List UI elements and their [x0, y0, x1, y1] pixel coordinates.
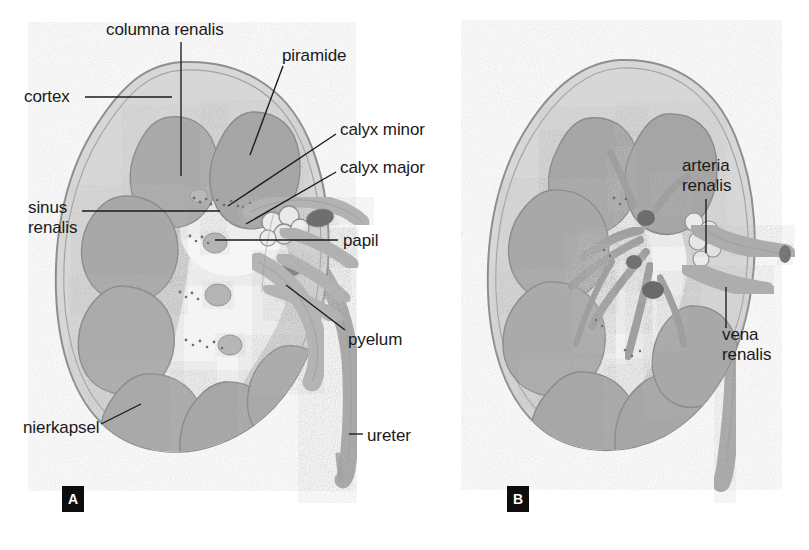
label-vena_renalis: vena renalis — [722, 325, 771, 365]
panel-badge-a: A — [62, 486, 84, 512]
kidney-diagram-svg — [0, 0, 809, 550]
label-cortex: cortex — [24, 87, 70, 107]
label-calyx_major: calyx major — [340, 158, 425, 178]
kidney-panel-a — [56, 62, 362, 496]
label-nierkapsel: nierkapsel — [23, 418, 100, 438]
label-pyelum: pyelum — [348, 330, 402, 350]
label-papil: papil — [343, 231, 378, 251]
label-arteria_renalis: arteria renalis — [682, 156, 731, 196]
label-piramide: piramide — [282, 46, 346, 66]
kidney-panel-b — [488, 60, 791, 494]
label-sinus_renalis: sinus renalis — [28, 198, 77, 238]
figure-page: columna renalispiramidecortexcalyx minor… — [0, 0, 809, 550]
label-ureter: ureter — [367, 426, 411, 446]
label-columna_renalis: columna renalis — [106, 20, 224, 40]
label-calyx_minor: calyx minor — [340, 120, 425, 140]
panel-badge-b: B — [507, 486, 529, 512]
